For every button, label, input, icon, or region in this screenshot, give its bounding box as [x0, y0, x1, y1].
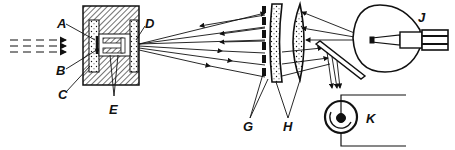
label-d: D: [145, 16, 155, 31]
optical-diagram: A B C D E G H J K: [0, 0, 455, 150]
label-j: J: [418, 10, 426, 25]
label-k: K: [366, 111, 377, 126]
lamp-bulb: [353, 5, 448, 72]
label-h: H: [283, 119, 293, 134]
ray-fan: [139, 13, 265, 77]
lens-left: [270, 4, 282, 82]
label-b: B: [56, 63, 65, 78]
label-g: G: [243, 119, 253, 134]
lens-right: [293, 4, 304, 80]
label-c: C: [58, 87, 68, 102]
label-e: E: [109, 102, 118, 117]
housing-block: [83, 6, 139, 85]
label-a: A: [56, 16, 66, 31]
incoming-light-arrows: [10, 40, 66, 52]
